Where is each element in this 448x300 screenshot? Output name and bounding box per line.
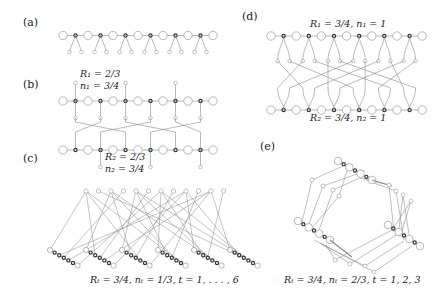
variable-node — [159, 31, 167, 39]
leaf-node — [174, 81, 178, 85]
check-node — [247, 259, 250, 262]
leaf-node — [401, 193, 405, 197]
check-node — [62, 256, 65, 259]
check-node — [392, 227, 395, 230]
variable-node — [346, 164, 354, 172]
check-node — [353, 169, 356, 172]
leaf-node — [159, 189, 163, 193]
variable-node — [155, 247, 160, 252]
leaf-node — [134, 189, 138, 193]
check-node — [312, 229, 315, 232]
variable-node — [159, 146, 167, 154]
variable-node — [357, 170, 365, 178]
panel-a-label: (a) — [23, 16, 38, 29]
leaf-node — [168, 50, 172, 54]
check-node — [103, 259, 106, 262]
variable-node — [209, 31, 217, 39]
variable-node — [184, 146, 192, 154]
variable-node — [418, 106, 426, 114]
variable-node — [255, 263, 260, 268]
variable-node — [159, 97, 167, 105]
leaf-node — [331, 188, 335, 192]
leaf-node — [109, 189, 113, 193]
check-node — [179, 261, 182, 264]
variable-node — [59, 31, 67, 39]
variable-node — [191, 247, 196, 252]
check-node — [251, 261, 254, 264]
variable-node — [416, 242, 424, 250]
variable-node — [75, 263, 80, 268]
variable-node — [305, 224, 313, 232]
variable-node — [267, 32, 275, 40]
check-node — [323, 235, 326, 238]
variable-node — [316, 230, 324, 238]
check-node — [365, 175, 368, 178]
leaf-node — [180, 50, 184, 54]
leaf-node — [337, 194, 341, 198]
leaf-node — [321, 184, 325, 188]
variable-node — [292, 32, 300, 40]
leaf-node — [121, 189, 125, 193]
variable-node — [119, 247, 124, 252]
leaf-node — [96, 189, 100, 193]
check-node — [130, 254, 133, 257]
leaf-node — [209, 189, 213, 193]
leaf-node — [363, 264, 367, 268]
leaf-node — [118, 50, 122, 54]
panel-e-graph — [294, 157, 424, 274]
check-node — [161, 251, 164, 254]
check-node — [125, 251, 128, 254]
panel-a-graph — [59, 31, 217, 54]
leaf-node — [146, 189, 150, 193]
check-node — [89, 251, 92, 254]
leaf-node — [68, 50, 72, 54]
check-node — [242, 256, 245, 259]
variable-node — [109, 97, 117, 105]
check-node — [211, 259, 214, 262]
check-node — [107, 261, 110, 264]
check-node — [67, 259, 70, 262]
check-node — [202, 254, 205, 257]
variable-node — [393, 106, 401, 114]
variable-node — [368, 32, 376, 40]
variable-node — [83, 247, 88, 252]
leaf-node — [348, 262, 352, 266]
variable-node — [219, 263, 224, 268]
leaf-node — [205, 50, 209, 54]
check-node — [175, 259, 178, 262]
leaf-node — [193, 50, 197, 54]
leaf-node — [199, 165, 203, 169]
variable-node — [209, 146, 217, 154]
leaf-node — [149, 165, 153, 169]
variable-node — [334, 157, 342, 165]
figure-canvas — [0, 0, 448, 300]
check-node — [166, 254, 169, 257]
check-node — [233, 251, 236, 254]
check-node — [215, 261, 218, 264]
variable-node — [267, 106, 275, 114]
leaf-node — [171, 189, 175, 193]
check-node — [98, 256, 101, 259]
variable-node — [183, 263, 188, 268]
variable-node — [418, 32, 426, 40]
panel-e-caption: Rₜ = 3/4, nₜ = 2/3, t = 1, 2, 3 — [284, 274, 421, 285]
check-node — [402, 234, 405, 237]
leaf-node — [84, 189, 88, 193]
leaf-node — [409, 199, 413, 203]
leaf-node — [99, 165, 103, 169]
variable-node — [134, 97, 142, 105]
variable-node — [109, 31, 117, 39]
variable-node — [317, 32, 325, 40]
check-node — [134, 256, 137, 259]
variable-node — [59, 97, 67, 105]
leaf-node — [105, 50, 109, 54]
panel-d-top-label: R₁ = 3/4, n₁ = 1 — [310, 18, 386, 29]
variable-node — [292, 106, 300, 114]
check-node — [170, 256, 173, 259]
check-node — [238, 254, 241, 257]
variable-node — [184, 97, 192, 105]
panel-d-label: (d) — [242, 10, 258, 23]
leaf-node — [310, 178, 314, 182]
variable-node — [84, 31, 92, 39]
panel-d-bottom-label: R₂ = 3/4, n₂ = 1 — [310, 112, 386, 123]
